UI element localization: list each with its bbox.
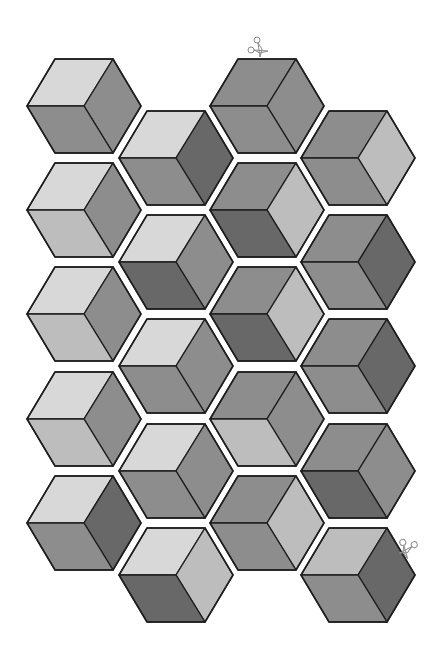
- hexagon-grid: [27, 59, 415, 622]
- hexagon-cube: [119, 215, 233, 309]
- hexagon-cube: [119, 111, 233, 205]
- hexagon-cube: [27, 267, 141, 361]
- hexagon-cube: [119, 528, 233, 622]
- scissors-icon: [248, 37, 268, 57]
- hexagon-cube: [27, 59, 141, 153]
- hexagon-cube: [301, 424, 415, 518]
- hexagon-cube: [27, 372, 141, 466]
- hexagon-cube: [301, 319, 415, 413]
- hexagon-cube: [27, 476, 141, 570]
- hexagon-cube: [301, 528, 415, 622]
- hexagon-cube: [301, 215, 415, 309]
- hexagon-cube: [210, 372, 324, 466]
- quilt-sheet: [0, 0, 442, 660]
- hexagon-cube: [210, 267, 324, 361]
- hexagon-cube: [119, 424, 233, 518]
- hexagon-cube: [119, 319, 233, 413]
- hexagon-cube: [210, 163, 324, 257]
- hexagon-cube: [27, 163, 141, 257]
- hexagon-cube: [210, 476, 324, 570]
- hexagon-cube: [301, 111, 415, 205]
- hexagon-cube: [210, 59, 324, 153]
